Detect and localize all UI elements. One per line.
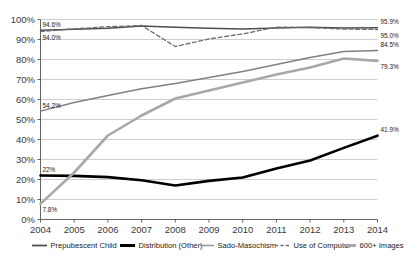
legend-label: 600+ Images (360, 241, 404, 250)
x-axis-group: 2004200520062007200820092010201120122013… (30, 220, 388, 236)
x-axis-tick-label: 2010 (232, 224, 253, 235)
legend-label: Distribution (Other) (139, 241, 204, 250)
x-axis-tick-label: 2009 (198, 224, 219, 235)
x-axis-tick-label: 2011 (266, 224, 286, 235)
y-axis-tick-label: 60% (16, 94, 36, 105)
y-axis-tick-label: 10% (16, 194, 36, 205)
x-axis-tick-label: 2013 (333, 224, 354, 235)
y-axis-tick-label: 90% (16, 34, 36, 45)
data-point-label: 41.9% (381, 126, 399, 133)
data-point-label: 7.8% (43, 206, 58, 213)
y-axis-tick-label: 50% (16, 114, 36, 125)
legend-label: Sado-Masochism (218, 241, 277, 250)
line-chart: 0%10%20%30%40%50%60%70%80%90%100% 200420… (0, 0, 417, 268)
x-axis-tick-label: 2012 (300, 224, 321, 235)
data-labels-group: 94.6%94.0%54.2%22%7.8%95.9%95.0%84.5%79.… (43, 18, 399, 213)
data-point-label: 94.6% (43, 21, 61, 28)
x-axis-tick-label: 2005 (64, 224, 85, 235)
legend-label: Prepubescent Child (51, 241, 117, 250)
x-axis-tick-label: 2008 (165, 224, 186, 235)
y-axis-tick-label: 40% (16, 134, 36, 145)
legend-group: Prepubescent ChildDistribution (Other)Sa… (32, 241, 404, 250)
x-axis-tick-label: 2014 (367, 224, 388, 235)
series-line (41, 136, 378, 186)
data-point-label: 95.0% (381, 32, 399, 39)
y-axis-tick-label: 80% (16, 54, 36, 65)
y-axis-tick-label: 30% (16, 154, 36, 165)
data-point-label: 94.0% (43, 34, 61, 41)
y-axis-tick-label: 70% (16, 74, 36, 85)
data-point-label: 95.9% (381, 18, 399, 25)
x-axis-tick-label: 2006 (97, 224, 118, 235)
data-point-label: 79.3% (381, 63, 399, 70)
x-axis-tick-label: 2007 (131, 224, 152, 235)
data-point-label: 54.2% (43, 102, 61, 109)
x-axis-tick-label: 2004 (30, 224, 51, 235)
chart-canvas: 0%10%20%30%40%50%60%70%80%90%100% 200420… (0, 0, 417, 268)
y-axis-tick-label: 100% (11, 14, 36, 25)
series-group (41, 26, 378, 204)
y-axis-group: 0%10%20%30%40%50%60%70%80%90%100% (11, 14, 41, 225)
data-point-label: 22% (43, 166, 56, 173)
y-axis-tick-label: 20% (16, 174, 36, 185)
gridlines-group (41, 20, 378, 220)
data-point-label: 84.5% (381, 41, 399, 48)
